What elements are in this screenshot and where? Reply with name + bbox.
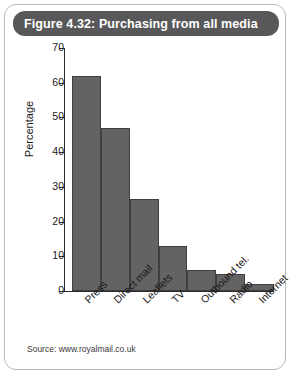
- y-tick-label: 30: [38, 180, 64, 192]
- y-tick-label: 0: [38, 284, 64, 296]
- y-axis-label: Percentage: [23, 79, 35, 179]
- y-tick-label: 20: [38, 215, 64, 227]
- y-tick: 60: [5, 83, 64, 84]
- y-axis-line: [64, 48, 65, 291]
- y-tick: 10: [5, 256, 64, 257]
- y-tick-label: 70: [38, 41, 64, 53]
- source-note: Source: www.royalmail.co.uk: [27, 344, 136, 354]
- y-tick-label: 60: [38, 76, 64, 88]
- y-tick: 40: [5, 152, 64, 153]
- y-tick-label: 10: [38, 249, 64, 261]
- bar: [72, 76, 101, 291]
- chart-plot-area: Percentage 010203040506070 PressDirect m…: [5, 5, 287, 371]
- y-tick: 0: [5, 291, 64, 292]
- y-tick: 50: [5, 117, 64, 118]
- y-tick-label: 40: [38, 145, 64, 157]
- y-tick: 20: [5, 222, 64, 223]
- figure-frame: Figure 4.32: Purchasing from all media P…: [4, 4, 286, 370]
- bar: [101, 128, 130, 291]
- y-tick: 30: [5, 187, 64, 188]
- y-tick: 70: [5, 48, 64, 49]
- y-tick-label: 50: [38, 110, 64, 122]
